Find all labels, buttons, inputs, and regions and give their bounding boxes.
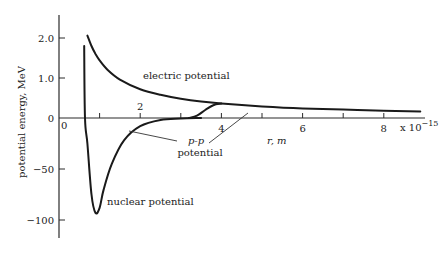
curve-p-p-potential	[189, 104, 222, 118]
x-multiplier: x 10−15	[400, 119, 438, 133]
leader-line-nuclear	[129, 131, 177, 141]
annotation-pp: p-p	[188, 135, 205, 146]
y-tick-label-−50: −50	[33, 164, 54, 175]
annotation-electric-potential: electric potential	[143, 70, 230, 81]
annotation-nuclear-potential: nuclear potential	[107, 196, 194, 207]
y-tick-label-2.0: 2.0	[38, 33, 54, 44]
y-tick-label-−100: −100	[27, 215, 54, 226]
x-tick-label-0: 0	[61, 120, 67, 131]
x-tick-label-6: 6	[299, 123, 305, 134]
chart: 02468 2.01.00−50−100 potential energy, M…	[0, 0, 447, 253]
y-tick-label-0: 0	[48, 113, 54, 124]
x-axis-label: r, m	[267, 135, 287, 146]
x-multiplier-exp: −15	[422, 119, 439, 128]
curves	[84, 36, 420, 214]
x-tick-label-2: 2	[137, 101, 143, 112]
x-axis-label-text: r, m	[267, 135, 287, 146]
y-tick-label-1.0: 1.0	[38, 73, 54, 84]
x-tick-label-8: 8	[381, 123, 387, 134]
x-multiplier-base: x 10	[400, 122, 422, 133]
annotation-pp-potential: potential	[177, 147, 222, 158]
y-axis-label: potential energy, MeV	[16, 65, 27, 178]
x-tick-label-4: 4	[218, 123, 224, 134]
